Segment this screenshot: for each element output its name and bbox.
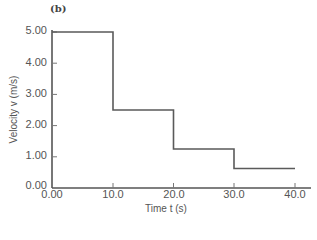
y-axis-label: Velocity v (m/s) [8,65,19,155]
y-tick-label: 5.00 [0,24,47,36]
x-tick-label: 30.0 [214,188,254,200]
velocity-step-line [52,32,295,169]
x-tick-label: 40.0 [275,188,315,200]
x-axis-label: Time t (s) [145,203,187,214]
x-tick-label: 10.0 [93,188,133,200]
x-tick-label: 20.0 [154,188,194,200]
x-tick-label: 0.00 [32,188,72,200]
